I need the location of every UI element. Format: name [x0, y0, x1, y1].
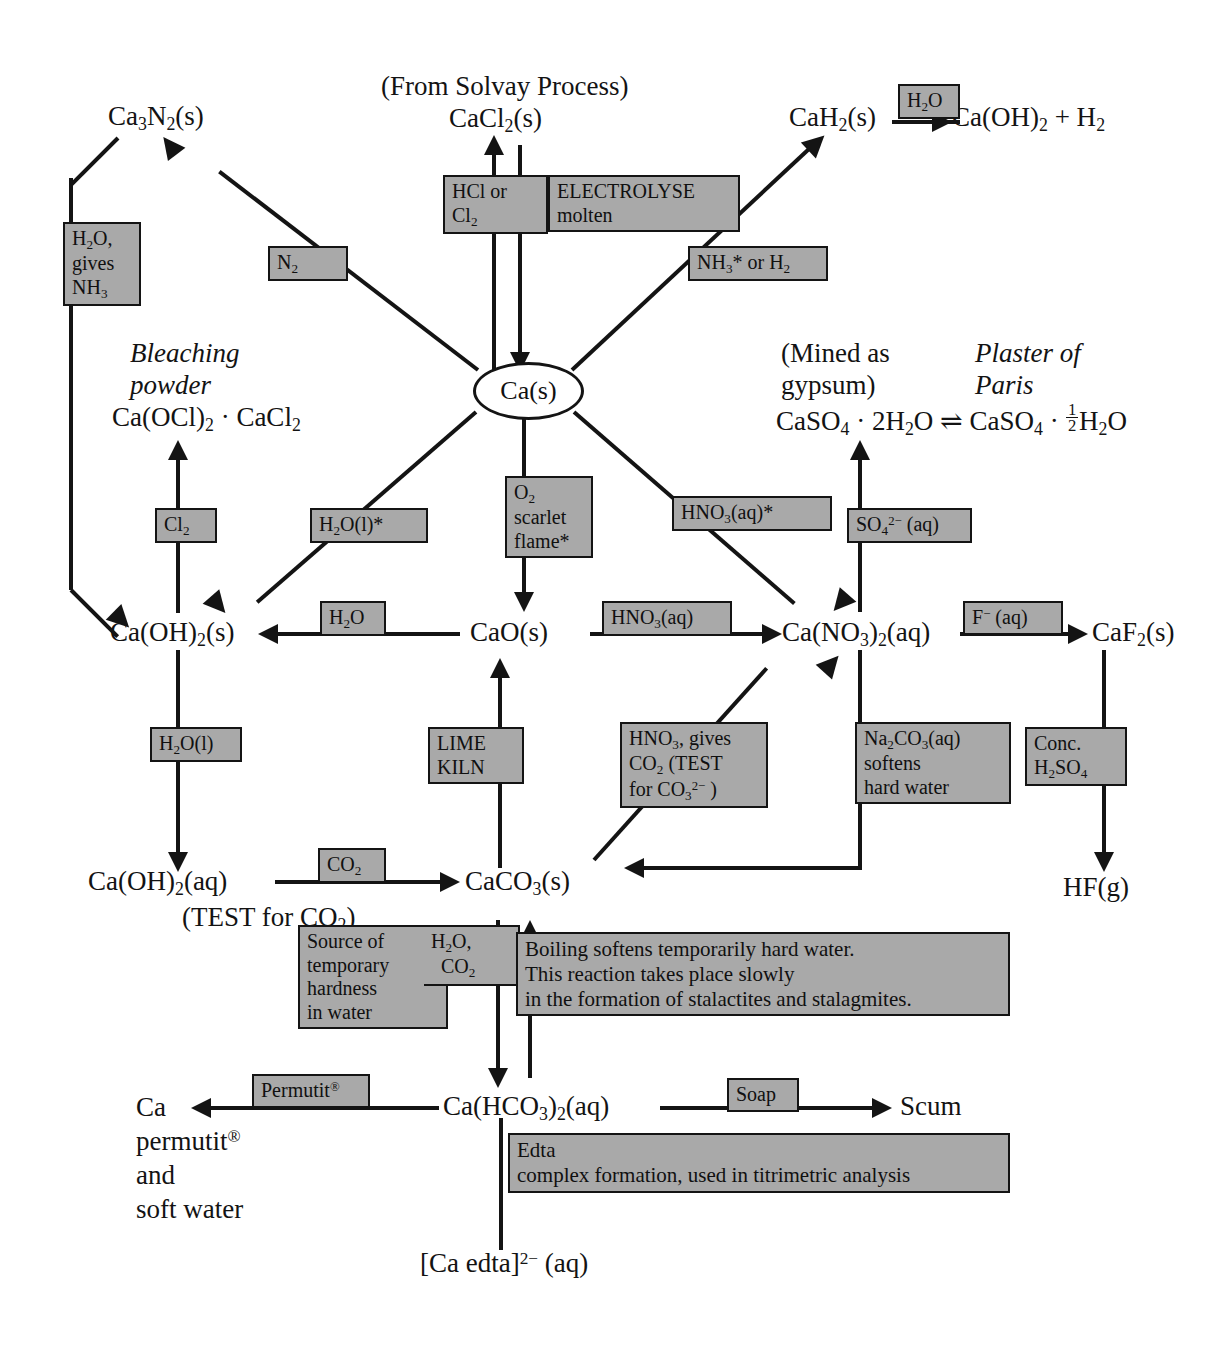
- species-ca-hco3-2: Ca(HCO3)2(aq): [443, 1091, 609, 1125]
- label-so4-2minus-aq: SO42− (aq): [847, 508, 972, 543]
- species-ca-permutit-line3: and: [136, 1160, 175, 1190]
- line-na2co3-to-caco3: [638, 866, 860, 870]
- label-boiling-softens: Boiling softens temporarily hard water.T…: [516, 932, 1010, 1016]
- reaction-diagram: Ca3N2(s) (From Solvay Process) CaCl2(s) …: [0, 0, 1209, 1346]
- label-conc-h2so4: Conc.H2SO4: [1025, 727, 1127, 786]
- arrowhead-ca-to-ca-no3-2: [825, 587, 856, 618]
- label-soap: Soap: [727, 1078, 799, 1112]
- species-caco3: CaCO3(s): [465, 866, 570, 900]
- arrowhead-na2co3-to-caco3: [624, 858, 644, 878]
- species-hf: HF(g): [1063, 872, 1129, 902]
- label-n2: N2: [268, 246, 348, 281]
- species-ca-no3-2: Ca(NO3)2(aq): [782, 617, 930, 651]
- species-cacl2: CaCl2(s): [449, 103, 542, 137]
- line-ca-hco3-to-edta: [499, 1118, 503, 1250]
- species-ca-metal: Ca(s): [500, 376, 556, 406]
- label-o2-scarlet-flame: O2scarletflame*: [505, 476, 593, 558]
- arrowhead-cao-to-ca-no3-2: [762, 624, 782, 644]
- label-permutit: Permutit®: [252, 1074, 370, 1108]
- arrowhead-ca-to-ca-oh2: [203, 589, 234, 620]
- text-plaster-line2: Paris: [975, 370, 1034, 400]
- label-hno3-gives-co2: HNO3, givesCO2 (TESTfor CO32− ): [620, 722, 768, 808]
- label-co2: CO2: [318, 848, 386, 883]
- species-ca-oh2-aq: Ca(OH)2(aq): [88, 866, 227, 900]
- arrowhead-to-ca-permutit: [191, 1098, 211, 1118]
- label-h2o-cao: H2O: [320, 601, 386, 636]
- arrowhead-ca-oh2-aq: [168, 852, 188, 872]
- arrowhead-to-caco3-from-ca-oh2: [440, 872, 460, 892]
- arrowhead-ca-to-cao: [514, 592, 534, 612]
- arrowhead-to-ca-no3-2-from-caco3: [816, 648, 847, 679]
- label-nh3-or-h2: NH3* or H2: [688, 246, 828, 281]
- arrowhead-to-cacl2: [484, 135, 504, 155]
- species-gypsum-equilibrium: CaSO4 · 2H2O ⇌ CaSO4 · 12H2O: [776, 402, 1127, 440]
- label-na2co3-softens: Na2CO3(aq)softenshard water: [855, 722, 1011, 804]
- label-edta: Edtacomplex formation, used in titrimetr…: [508, 1133, 1010, 1193]
- label-f-minus-aq: F− (aq): [963, 601, 1063, 635]
- species-bleaching-powder-formula: Ca(OCl)2 · CaCl2: [112, 402, 301, 436]
- label-h2o-l-star: H2O(l)*: [310, 508, 428, 543]
- arrowhead-to-hf: [1094, 852, 1114, 872]
- species-caf2: CaF2(s): [1092, 617, 1174, 651]
- arrowhead-to-caf2: [1068, 624, 1088, 644]
- line-ca-to-ca3n2: [218, 170, 479, 372]
- species-ca-permutit-line1: Ca: [136, 1092, 166, 1122]
- species-cao: CaO(s): [470, 617, 548, 647]
- label-lime-kiln: LIMEKILN: [428, 727, 524, 784]
- species-ca-oh2-plus-h2: Ca(OH)2 + H2: [952, 102, 1105, 136]
- label-cl2: Cl2: [155, 508, 217, 543]
- note-from-solvay-process: (From Solvay Process): [381, 71, 628, 101]
- line-ca3n2-bracket-top: [70, 137, 119, 186]
- species-ca3n2: Ca3N2(s): [108, 101, 204, 135]
- label-electrolyse-molten: ELECTROLYSEmolten: [548, 175, 740, 232]
- species-scum: Scum: [900, 1091, 962, 1121]
- label-hno3-aq-star: HNO3(aq)*: [672, 496, 832, 531]
- species-ca-permutit-line4: soft water: [136, 1194, 243, 1224]
- arrowhead-to-scum: [872, 1098, 892, 1118]
- species-cah2: CaH2(s): [789, 102, 876, 136]
- text-mined-as-line1: (Mined as: [781, 338, 890, 368]
- text-bleaching-line1: Bleaching: [130, 338, 239, 368]
- arrowhead-to-gypsum: [850, 440, 870, 460]
- species-ca-metal-node: Ca(s): [473, 362, 584, 420]
- label-hcl-or-cl2: HCl orCl2: [443, 175, 548, 234]
- text-mined-as-line2: gypsum): [781, 370, 876, 400]
- arrowhead-to-ca-hco3-2: [488, 1068, 508, 1088]
- text-bleaching-line2: powder: [130, 370, 211, 400]
- text-plaster-line1: Plaster of: [975, 338, 1081, 368]
- species-ca-permutit-line2: permutit®: [136, 1126, 241, 1156]
- arrowhead-cao-to-ca-oh2: [258, 624, 278, 644]
- label-h2o-l: H2O(l): [150, 727, 242, 762]
- arrowhead-to-bleaching: [168, 440, 188, 460]
- label-h2o-gives-nh3: H2O,givesNH3: [63, 222, 141, 306]
- label-h2o-co2: H2O, CO2: [424, 925, 520, 986]
- arrowhead-caco3-to-cao: [490, 658, 510, 678]
- species-ca-edta: [Ca edta]2− (aq): [420, 1248, 588, 1278]
- label-h2o-cah2: H2O: [898, 84, 960, 119]
- label-hno3-aq: HNO3(aq): [602, 601, 732, 636]
